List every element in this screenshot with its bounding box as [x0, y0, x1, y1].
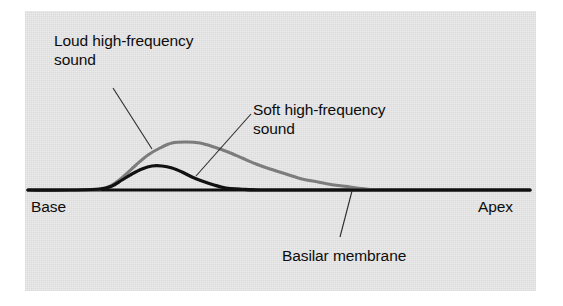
- axis-label-base: Base: [31, 197, 66, 216]
- label-basilar-membrane: Basilar membrane: [282, 246, 406, 265]
- loud-leader: [113, 88, 152, 149]
- basilar-leader: [340, 191, 352, 237]
- basilar-membrane-figure: Loud high-frequency sound Soft high-freq…: [0, 0, 563, 306]
- curve-group: [28, 142, 530, 190]
- label-soft-high-frequency-sound: Soft high-frequency sound: [253, 100, 386, 138]
- label-loud-high-frequency-sound: Loud high-frequency sound: [54, 31, 193, 69]
- axis-label-apex: Apex: [478, 197, 513, 216]
- curve-soft-sound: [28, 166, 530, 190]
